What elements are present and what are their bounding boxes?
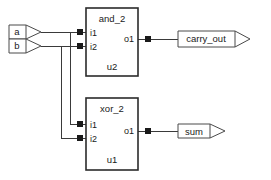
block-and-2-pin-o1-label: o1 [124, 34, 134, 44]
output-port-carry-out[interactable]: carry_out [178, 31, 250, 47]
output-port-carry-out-label: carry_out [186, 33, 226, 44]
junction-dot-xor-i1 [77, 121, 83, 127]
schematic-drawing: and_2 i1 i2 o1 u2 xor_2 i1 i2 o1 u1 a b [0, 0, 271, 180]
input-port-a[interactable]: a [9, 25, 41, 39]
block-xor-2-pin-i2-label: i2 [90, 134, 97, 144]
block-xor-2-instance-label: u1 [107, 154, 118, 165]
block-and-2-instance-label: u2 [107, 61, 118, 72]
block-xor-2[interactable]: xor_2 i1 i2 o1 u1 [86, 98, 138, 170]
input-port-b[interactable]: b [9, 39, 41, 53]
junction-dot-xor-o1 [145, 128, 151, 134]
input-port-b-label: b [14, 40, 19, 51]
schematic-canvas: and_2 i1 i2 o1 u2 xor_2 i1 i2 o1 u1 a b [0, 0, 271, 180]
junction-dot-and-o1 [145, 36, 151, 42]
block-and-2-type-label: and_2 [99, 13, 125, 24]
block-and-2-pin-i2-label: i2 [90, 42, 97, 52]
junction-dot-and-i1 [77, 29, 83, 35]
block-and-2[interactable]: and_2 i1 i2 o1 u2 [86, 8, 138, 76]
output-port-sum[interactable]: sum [178, 124, 225, 138]
output-port-sum-label: sum [185, 126, 203, 137]
block-xor-2-pin-o1-label: o1 [124, 126, 134, 136]
block-xor-2-type-label: xor_2 [100, 103, 124, 114]
input-port-a-label: a [14, 26, 20, 37]
junction-dot-xor-i2 [77, 135, 83, 141]
junction-dot-and-i2 [77, 43, 83, 49]
block-xor-2-pin-i1-label: i1 [90, 120, 97, 130]
block-and-2-pin-i1-label: i1 [90, 28, 97, 38]
